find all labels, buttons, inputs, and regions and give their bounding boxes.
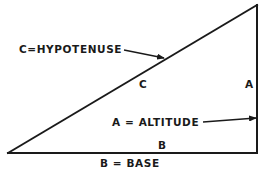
hypotenuse-edge — [8, 5, 257, 153]
hypotenuse-side-label: C — [139, 78, 147, 90]
hypotenuse-callout-label: C=HYPOTENUSE — [19, 43, 122, 55]
altitude-arrow — [203, 118, 256, 122]
right-triangle-diagram: C=HYPOTENUSE A = ALTITUDE B = BASE C A B — [0, 0, 264, 176]
base-side-label: B — [158, 139, 166, 151]
base-callout-label: B = BASE — [100, 157, 160, 169]
hypotenuse-arrow — [124, 50, 164, 58]
altitude-callout-label: A = ALTITUDE — [112, 116, 199, 128]
altitude-side-label: A — [245, 78, 254, 90]
